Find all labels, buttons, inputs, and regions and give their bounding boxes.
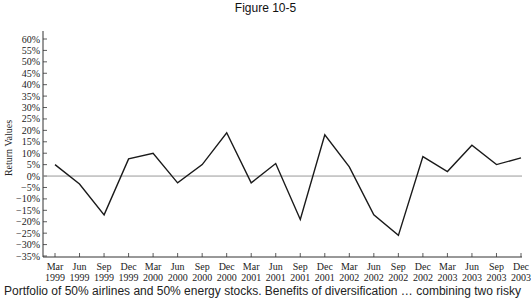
x-tick-label-month: Dec — [415, 261, 432, 272]
x-tick-label-year: 2001 — [266, 272, 286, 283]
y-tick-label: 45% — [22, 68, 40, 79]
x-tick-label-year: 2002 — [339, 272, 359, 283]
x-tick-label-month: Jun — [269, 261, 283, 272]
y-tick-label: −30% — [16, 239, 40, 250]
y-axis: 60%55%50%45%40%35%30%25%20%15%10%5%0%−5%… — [16, 31, 47, 262]
y-tick-label: −25% — [16, 228, 40, 239]
y-tick-label: 20% — [22, 125, 40, 136]
x-tick-label-month: Jun — [465, 261, 479, 272]
x-tick-label-month: Sep — [195, 261, 210, 272]
x-tick-label-year: 1999 — [45, 272, 65, 283]
x-tick-label-month: Sep — [97, 261, 112, 272]
y-tick-label: 10% — [22, 148, 40, 159]
y-tick-label: 35% — [22, 91, 40, 102]
x-tick-label-year: 2002 — [413, 272, 433, 283]
x-tick-label-year: 2003 — [511, 272, 531, 283]
y-tick-label: 50% — [22, 56, 40, 67]
x-tick-label-year: 2000 — [143, 272, 163, 283]
x-tick-label-year: 1999 — [70, 272, 90, 283]
x-tick-label-year: 1999 — [119, 272, 139, 283]
y-tick-label: 5% — [27, 159, 40, 170]
x-axis: Mar1999Jun1999Sep1999Dec1999Mar2000Jun20… — [43, 253, 531, 283]
x-tick-label-year: 2000 — [217, 272, 237, 283]
x-tick-label-month: Jun — [367, 261, 381, 272]
y-tick-label: 40% — [22, 79, 40, 90]
y-tick-label: 15% — [22, 136, 40, 147]
x-tick-label-year: 1999 — [94, 272, 114, 283]
line-chart: 60%55%50%45%40%35%30%25%20%15%10%5%0%−5%… — [0, 0, 531, 300]
x-tick-label-month: Mar — [341, 261, 358, 272]
x-tick-label-month: Mar — [439, 261, 456, 272]
x-tick-label-month: Dec — [317, 261, 334, 272]
y-tick-label: −5% — [21, 182, 40, 193]
x-tick-label-year: 2003 — [462, 272, 482, 283]
x-tick-label-year: 2003 — [437, 272, 457, 283]
x-tick-label-month: Jun — [171, 261, 185, 272]
y-tick-label: −15% — [16, 205, 40, 216]
x-tick-label-month: Dec — [513, 261, 530, 272]
x-tick-label-year: 2002 — [364, 272, 384, 283]
x-tick-label-year: 2002 — [388, 272, 408, 283]
y-tick-label: 30% — [22, 102, 40, 113]
x-tick-label-year: 2001 — [241, 272, 261, 283]
y-tick-label: 0% — [27, 171, 40, 182]
y-tick-label: 60% — [22, 34, 40, 45]
x-tick-label-month: Mar — [47, 261, 64, 272]
figure-caption: Portfolio of 50% airlines and 50% energy… — [0, 284, 531, 298]
x-tick-label-year: 2000 — [192, 272, 212, 283]
x-tick-label-month: Jun — [73, 261, 87, 272]
x-tick-label-month: Dec — [219, 261, 236, 272]
y-tick-label: 25% — [22, 113, 40, 124]
x-tick-label-month: Sep — [293, 261, 308, 272]
x-tick-label-year: 2003 — [486, 272, 506, 283]
y-tick-label: −10% — [16, 193, 40, 204]
y-tick-label: 55% — [22, 45, 40, 56]
x-tick-label-year: 2001 — [315, 272, 335, 283]
x-tick-label-year: 2000 — [168, 272, 188, 283]
x-tick-label-month: Mar — [145, 261, 162, 272]
y-tick-label: −20% — [16, 216, 40, 227]
x-tick-label-month: Dec — [121, 261, 138, 272]
x-tick-label-year: 2001 — [290, 272, 310, 283]
data-series-line — [55, 133, 521, 236]
x-tick-label-month: Sep — [391, 261, 406, 272]
y-axis-label: Return Values — [3, 120, 14, 176]
x-tick-label-month: Sep — [489, 261, 504, 272]
x-tick-label-month: Mar — [243, 261, 260, 272]
y-tick-label: −35% — [16, 251, 40, 262]
